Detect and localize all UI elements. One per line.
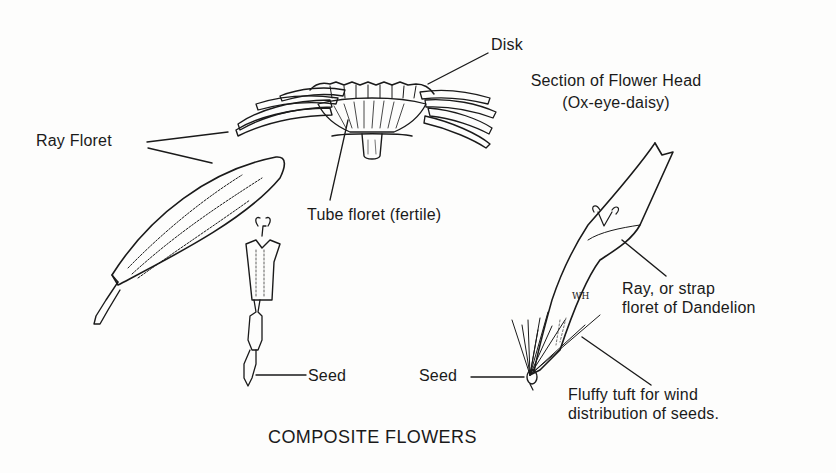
tube-floret-leader-line [330, 120, 348, 200]
tuft-label-line2: distribution of seeds. [568, 405, 719, 423]
composite-flowers-diagram: Disk Section of Flower Head (Ox-eye-dais… [0, 0, 836, 473]
disk-leader-line [428, 53, 488, 84]
ray-floret-label: Ray Floret [36, 132, 112, 150]
ray-floret-leader-line-1 [147, 132, 228, 142]
dandelion-floret-drawing [512, 143, 673, 390]
dandelion-label-line2: floret of Dandelion [622, 299, 756, 317]
tuft-leader-line [582, 337, 651, 385]
botanical-illustration [0, 0, 836, 473]
seed-right-label: Seed [419, 367, 457, 385]
tube-floret-label: Tube floret (fertile) [307, 206, 441, 224]
section-heading-line2: (Ox-eye-daisy) [498, 94, 734, 112]
dandelion-leader-line [622, 240, 666, 276]
section-heading-line1: Section of Flower Head [498, 72, 734, 90]
daisy-flower-head-drawing [236, 82, 496, 159]
disk-label: Disk [491, 36, 523, 54]
tube-floret-drawing [244, 217, 280, 386]
seed-left-label: Seed [308, 367, 346, 385]
artist-signature: WH [572, 287, 590, 305]
tuft-label-line1: Fluffy tuft for wind [568, 386, 698, 404]
dandelion-label-line1: Ray, or strap [622, 280, 715, 298]
ray-floret-leader-line-2 [148, 148, 212, 163]
diagram-title: COMPOSITE FLOWERS [268, 428, 477, 446]
